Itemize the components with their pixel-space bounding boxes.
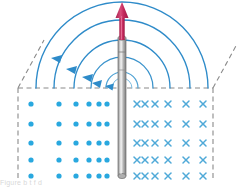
dot-marker [86, 157, 91, 162]
cross-marker [152, 140, 158, 146]
wire-body [118, 38, 126, 176]
cross-marker [183, 121, 189, 127]
cross-marker [142, 140, 148, 146]
dot-marker [28, 101, 33, 106]
dot-marker [86, 101, 91, 106]
cross-marker [165, 121, 171, 127]
dot-marker [104, 121, 109, 126]
field-into-page-crosses [134, 101, 206, 179]
cross-marker [152, 121, 158, 127]
dot-marker [96, 121, 101, 126]
cross-marker [200, 101, 206, 107]
cross-marker [134, 140, 140, 146]
field-arrowhead-4 [66, 66, 77, 74]
current-arrow-head [116, 2, 129, 18]
field-arrowhead-5 [51, 55, 62, 63]
dot-marker [86, 121, 91, 126]
magnetic-field-figure: Figure b t f d [0, 0, 242, 187]
current-carrying-wire [118, 36, 126, 179]
plane-right-diagonal-edge [213, 44, 237, 88]
cross-marker [142, 157, 148, 163]
dot-marker [86, 140, 91, 145]
cross-marker [134, 121, 140, 127]
dot-marker [28, 121, 33, 126]
cross-marker [200, 140, 206, 146]
dot-marker [73, 140, 78, 145]
dot-marker [104, 140, 109, 145]
figure-caption-fragment: Figure b t f d [0, 178, 242, 187]
dot-marker [73, 101, 78, 106]
dot-marker [104, 101, 109, 106]
cross-marker [142, 121, 148, 127]
dot-marker [73, 157, 78, 162]
dot-marker [56, 157, 61, 162]
cross-marker [183, 157, 189, 163]
cross-marker [183, 101, 189, 107]
cross-marker [152, 101, 158, 107]
dot-marker [96, 101, 101, 106]
dot-marker [28, 140, 33, 145]
field-out-of-page-dots [28, 101, 109, 178]
cross-marker [200, 157, 206, 163]
cross-marker [134, 157, 140, 163]
cross-marker [200, 121, 206, 127]
cross-marker [165, 157, 171, 163]
current-direction-arrow [116, 2, 129, 40]
dot-marker [56, 121, 61, 126]
field-arrowhead-2 [92, 80, 102, 88]
dot-marker [104, 157, 109, 162]
cross-marker [183, 140, 189, 146]
dot-marker [73, 121, 78, 126]
dot-marker [56, 101, 61, 106]
dot-marker [56, 140, 61, 145]
cross-marker [134, 101, 140, 107]
cross-marker [165, 101, 171, 107]
dot-marker [28, 157, 33, 162]
cross-marker [142, 101, 148, 107]
figure-canvas [0, 0, 242, 187]
cross-marker [152, 157, 158, 163]
cross-marker [165, 140, 171, 146]
dot-marker [96, 140, 101, 145]
dot-marker [96, 157, 101, 162]
